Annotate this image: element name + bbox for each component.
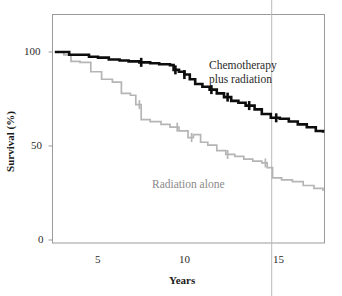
survival-chart-figure: 100 50 0 5 10 15 Years Survival (%) Chem…	[0, 0, 342, 296]
y-axis-tick-label-100: 100	[24, 46, 41, 57]
annotation-chemo-line2: plus radiation	[209, 73, 277, 87]
x-axis-tick-label-15: 15	[273, 254, 284, 265]
y-axis-title-wrapper: Survival (%)	[2, 98, 18, 188]
y-axis-tick-label-0: 0	[38, 234, 44, 245]
x-axis-tick-label-10: 10	[179, 254, 190, 265]
x-axis-tick-label-5: 5	[95, 254, 101, 265]
radiation-alone-step-line	[55, 52, 323, 191]
radiation-alone-censor-marks	[139, 100, 265, 167]
annotation-radiation-alone: Radiation alone	[152, 178, 225, 192]
y-axis-title: Survival (%)	[5, 97, 16, 187]
x-axis-title: Years	[169, 275, 195, 286]
annotation-chemotherapy-plus-radiation: Chemotherapy plus radiation	[209, 59, 277, 86]
chart-canvas	[0, 0, 342, 296]
chemotherapy-plus-radiation-step-line	[55, 52, 323, 133]
y-axis-tick-label-50: 50	[31, 140, 42, 151]
series-chemotherapy-plus-radiation	[55, 52, 323, 133]
annotation-chemo-line1: Chemotherapy	[209, 59, 277, 73]
axis-tick-marks	[49, 52, 53, 240]
plot-frame-box	[53, 15, 325, 244]
series-radiation-alone	[55, 52, 323, 191]
plot-frame	[53, 15, 325, 244]
